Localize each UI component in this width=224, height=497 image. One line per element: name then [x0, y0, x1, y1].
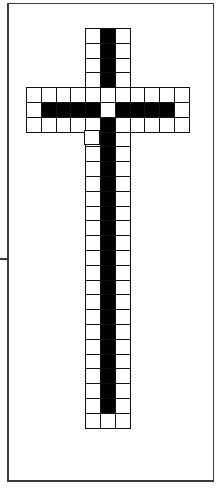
empty-cell [85, 43, 101, 59]
filled-cell [100, 368, 116, 384]
empty-cell [115, 368, 131, 384]
empty-cell [115, 117, 131, 133]
empty-cell [85, 206, 101, 222]
filled-cell [85, 102, 101, 118]
empty-cell [115, 294, 131, 310]
empty-cell [115, 43, 131, 59]
empty-cell [115, 87, 131, 103]
empty-cell [115, 339, 131, 355]
filled-cell [100, 294, 116, 310]
empty-cell [85, 398, 101, 414]
empty-cell [174, 102, 190, 118]
empty-cell [85, 146, 101, 162]
empty-cell [85, 354, 101, 370]
empty-cell [100, 413, 116, 429]
filled-cell [100, 398, 116, 414]
empty-cell [130, 87, 146, 103]
filled-cell [100, 250, 116, 266]
empty-cell [41, 117, 57, 133]
empty-cell [174, 117, 190, 133]
empty-cell [85, 161, 101, 177]
empty-cell [85, 324, 101, 340]
filled-cell [100, 309, 116, 325]
filled-cell [100, 354, 116, 370]
filled-cell [100, 383, 116, 399]
empty-cell [85, 294, 101, 310]
filled-cell [159, 102, 175, 118]
empty-cell [130, 117, 146, 133]
empty-cell [85, 383, 101, 399]
empty-cell [115, 235, 131, 251]
empty-cell [115, 265, 131, 281]
empty-cell [85, 309, 101, 325]
filled-cell [130, 102, 146, 118]
empty-cell [115, 191, 131, 207]
empty-cell [115, 383, 131, 399]
empty-cell [115, 280, 131, 296]
empty-cell [115, 72, 131, 88]
filled-cell [100, 191, 116, 207]
filled-cell [100, 235, 116, 251]
empty-cell [144, 87, 160, 103]
empty-cell [26, 87, 42, 103]
filled-cell [100, 280, 116, 296]
empty-cell [85, 250, 101, 266]
empty-cell [115, 132, 131, 148]
empty-cell [115, 176, 131, 192]
empty-cell [85, 220, 101, 236]
empty-cell [100, 87, 116, 103]
empty-cell [85, 280, 101, 296]
empty-cell [70, 87, 86, 103]
empty-cell [100, 102, 116, 118]
filled-cell [100, 324, 116, 340]
empty-cell [85, 339, 101, 355]
filled-cell [100, 265, 116, 281]
empty-cell [115, 58, 131, 74]
empty-cell [85, 235, 101, 251]
empty-cell [144, 117, 160, 133]
empty-cell [41, 87, 57, 103]
empty-cell [115, 250, 131, 266]
filled-cell [100, 220, 116, 236]
cross-grid [0, 0, 224, 497]
filled-cell [100, 72, 116, 88]
empty-cell [115, 398, 131, 414]
filled-cell [100, 28, 116, 44]
empty-cell [85, 72, 101, 88]
filled-cell [115, 102, 131, 118]
offset-cell [84, 130, 100, 146]
filled-cell [100, 176, 116, 192]
filled-cell [100, 117, 116, 133]
filled-cell [144, 102, 160, 118]
filled-cell [100, 161, 116, 177]
empty-cell [85, 58, 101, 74]
empty-cell [115, 413, 131, 429]
empty-cell [85, 28, 101, 44]
empty-cell [115, 146, 131, 162]
filled-cell [41, 102, 57, 118]
empty-cell [85, 265, 101, 281]
filled-cell [100, 146, 116, 162]
empty-cell [115, 206, 131, 222]
filled-cell [100, 206, 116, 222]
empty-cell [85, 368, 101, 384]
filled-cell [100, 339, 116, 355]
empty-cell [85, 87, 101, 103]
empty-cell [174, 87, 190, 103]
empty-cell [115, 161, 131, 177]
empty-cell [56, 87, 72, 103]
empty-cell [115, 354, 131, 370]
filled-cell [100, 58, 116, 74]
empty-cell [26, 117, 42, 133]
empty-cell [159, 87, 175, 103]
filled-cell [100, 132, 116, 148]
empty-cell [115, 309, 131, 325]
empty-cell [85, 413, 101, 429]
empty-cell [85, 191, 101, 207]
empty-cell [26, 102, 42, 118]
empty-cell [115, 324, 131, 340]
empty-cell [159, 117, 175, 133]
empty-cell [115, 28, 131, 44]
empty-cell [85, 176, 101, 192]
filled-cell [100, 43, 116, 59]
